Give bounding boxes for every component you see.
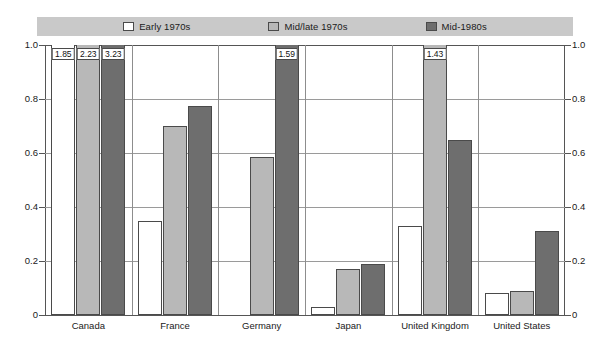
plot-left-edge: [45, 45, 46, 315]
chart-legend: Early 1970s Mid/late 1970s Mid-1980s: [37, 17, 573, 36]
legend-swatch-icon-mid-1980s: [426, 22, 437, 31]
bar-united-states-mid-late-1970s: [510, 291, 534, 315]
bar-value-label: 1.59: [275, 48, 298, 60]
y-axis-left: 1.00.80.60.40.20: [0, 45, 38, 315]
y-tick-label-left-0: 1.0: [25, 39, 38, 50]
bar-canada-early-1970s: 1.85: [51, 45, 75, 315]
bar-group-france: [138, 45, 212, 315]
y-tick-mark-left-5: [39, 315, 45, 316]
y-tick-mark-left-3: [39, 207, 45, 208]
bar-united-kingdom-mid-late-1970s: 1.43: [423, 45, 447, 315]
bar-group-united-states: [485, 45, 559, 315]
bar-germany-mid-1980s: 1.59: [275, 45, 299, 315]
plot-area: 1.852.233.231.591.43: [45, 45, 565, 315]
x-axis-label-canada: Canada: [72, 320, 105, 331]
y-tick-label-right-2: 0.6: [572, 147, 585, 158]
bar-united-states-mid-1980s: [535, 231, 559, 315]
y-tick-mark-right-1: [565, 99, 571, 100]
x-axis-label-germany: Germany: [242, 320, 281, 331]
y-tick-label-left-4: 0.2: [25, 255, 38, 266]
bar-united-kingdom-mid-1980s: [448, 140, 472, 316]
y-tick-mark-right-3: [565, 207, 571, 208]
x-axis-label-united-states: United States: [493, 320, 550, 331]
x-axis-labels: CanadaFranceGermanyJapanUnited KingdomUn…: [45, 320, 565, 336]
y-tick-mark-left-1: [39, 99, 45, 100]
y-tick-label-right-4: 0.2: [572, 255, 585, 266]
bar-france-mid-late-1970s: [163, 126, 187, 315]
bar-group-japan: [311, 45, 385, 315]
bar-france-mid-1980s: [188, 106, 212, 315]
y-tick-mark-right-2: [565, 153, 571, 154]
y-tick-mark-right-5: [565, 315, 571, 316]
category-separator-5: [478, 45, 479, 315]
y-tick-mark-left-4: [39, 261, 45, 262]
legend-label-early-1970s: Early 1970s: [139, 21, 190, 32]
bar-united-states-early-1970s: [485, 293, 509, 315]
y-tick-label-left-3: 0.4: [25, 201, 38, 212]
bar-canada-mid-late-1970s: 2.23: [76, 45, 100, 315]
y-tick-mark-left-2: [39, 153, 45, 154]
bar-value-label: 2.23: [77, 48, 100, 60]
y-tick-label-left-1: 0.8: [25, 93, 38, 104]
bar-japan-early-1970s: [311, 307, 335, 315]
y-tick-mark-right-4: [565, 261, 571, 262]
bar-group-germany: 1.59: [225, 45, 299, 315]
bar-france-early-1970s: [138, 221, 162, 316]
legend-swatch-icon-early-1970s: [123, 22, 134, 31]
category-separator-1: [132, 45, 133, 315]
y-tick-mark-right-0: [565, 45, 571, 46]
legend-label-mid-1980s: Mid-1980s: [442, 21, 487, 32]
y-tick-label-right-1: 0.8: [572, 93, 585, 104]
bar-germany-mid-late-1970s: [250, 157, 274, 315]
legend-label-mid-late-1970s: Mid/late 1970s: [284, 21, 347, 32]
bar-value-label: 1.43: [424, 48, 447, 60]
category-separator-2: [218, 45, 219, 315]
legend-entry-mid-1980s: Mid-1980s: [426, 21, 487, 32]
y-tick-label-left-2: 0.6: [25, 147, 38, 158]
x-axis-label-japan: Japan: [335, 320, 361, 331]
legend-entry-mid-late-1970s: Mid/late 1970s: [268, 21, 347, 32]
bar-japan-mid-1980s: [361, 264, 385, 315]
y-tick-label-right-3: 0.4: [572, 201, 585, 212]
bar-group-canada: 1.852.233.23: [51, 45, 125, 315]
y-tick-label-left-5: 0: [33, 309, 38, 320]
category-separator-3: [305, 45, 306, 315]
bar-chart: Early 1970s Mid/late 1970s Mid-1980s 1.0…: [0, 0, 610, 353]
y-tick-mark-left-0: [39, 45, 45, 46]
y-tick-label-right-0: 1.0: [572, 39, 585, 50]
axis-bottom-line: [45, 315, 565, 316]
bar-united-kingdom-early-1970s: [398, 226, 422, 315]
bar-value-label: 1.85: [52, 48, 75, 60]
bar-value-label: 3.23: [102, 48, 125, 60]
x-axis-label-united-kingdom: United Kingdom: [401, 320, 469, 331]
legend-swatch-icon-mid-late-1970s: [268, 22, 279, 31]
x-axis-label-france: France: [160, 320, 190, 331]
bar-canada-mid-1980s: 3.23: [101, 45, 125, 315]
plot-right-edge: [564, 45, 565, 315]
legend-entry-early-1970s: Early 1970s: [123, 21, 190, 32]
bar-group-united-kingdom: 1.43: [398, 45, 472, 315]
y-tick-label-right-5: 0: [572, 309, 577, 320]
category-separator-4: [392, 45, 393, 315]
y-axis-right: 1.00.80.60.40.20: [572, 45, 610, 315]
bar-japan-mid-late-1970s: [336, 269, 360, 315]
